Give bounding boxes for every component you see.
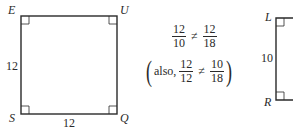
vertex-label-L: L (265, 11, 272, 23)
right-angle-mark-R (276, 92, 284, 100)
fraction: 1218 (203, 24, 217, 49)
side-length-ES: 12 (6, 60, 18, 72)
side-length-SQ: 12 (63, 117, 75, 129)
right-angle-mark-S (21, 106, 29, 114)
vertex-label-U: U (120, 4, 129, 16)
square-EUQS (21, 16, 117, 114)
denominator: 12 (179, 72, 193, 84)
right-angle-mark-Q (109, 106, 117, 114)
fraction: 1210 (172, 24, 186, 49)
vertex-label-Q: Q (120, 112, 129, 124)
not-equal-sign: ≠ (198, 64, 205, 79)
also-text: also, (154, 64, 176, 79)
denominator: 18 (203, 37, 217, 49)
close-paren: ) (226, 56, 232, 86)
fraction: 1212 (179, 59, 193, 84)
open-paren: ( (146, 56, 152, 86)
denominator: 10 (172, 37, 186, 49)
inequality-2: ( also, 1212 ≠ 1018 ) (144, 56, 234, 86)
vertex-label-R: R (264, 96, 271, 108)
right-angle-mark-U (109, 16, 117, 24)
numerator: 10 (210, 59, 224, 72)
right-angle-mark-L (276, 18, 284, 26)
numerator: 12 (179, 59, 193, 72)
vertex-label-S: S (9, 112, 15, 124)
right-angle-mark-E (21, 16, 29, 24)
inequality-1: 1210 ≠ 1218 (172, 24, 217, 49)
rectangle-LR-partial (276, 18, 293, 100)
denominator: 18 (210, 72, 224, 84)
vertex-label-E: E (8, 4, 15, 16)
side-length-LR: 10 (261, 52, 273, 64)
not-equal-sign: ≠ (191, 29, 198, 44)
fraction: 1018 (210, 59, 224, 84)
